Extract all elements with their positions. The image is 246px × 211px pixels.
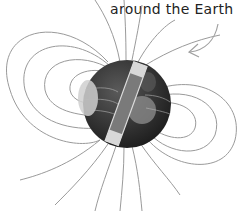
pointer-arrow [189,24,218,57]
magnetic-field-diagram [0,0,246,211]
